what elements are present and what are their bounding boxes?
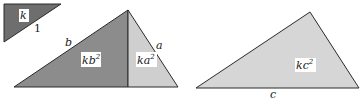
- big-triangle-right-part: [128, 10, 178, 87]
- small-triangle: [4, 4, 61, 42]
- side-a-label: a: [156, 39, 163, 52]
- hypotenuse-triangle: [196, 12, 359, 88]
- small-triangle-area-label: k: [20, 9, 27, 22]
- diagram-canvas: k 1 b a kb2 ka2 kc2 c: [0, 0, 363, 99]
- small-triangle-side-label: 1: [34, 22, 41, 35]
- side-c-label: c: [270, 88, 276, 99]
- side-b-label: b: [65, 36, 72, 49]
